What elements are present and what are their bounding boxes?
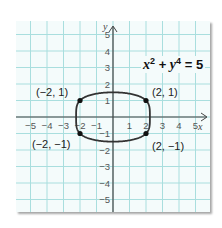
point-marker: [77, 98, 82, 103]
point-marker: [143, 98, 148, 103]
y-tick-label: 3: [105, 62, 110, 73]
y-tick-label: −3: [99, 161, 110, 172]
y-tick-label: 5: [105, 29, 110, 40]
point-label: (−2, −1): [32, 138, 71, 150]
equation-label: x2 + y4 = 5: [141, 56, 205, 73]
x-tick-label: −5: [25, 120, 36, 131]
x-tick-label: 3: [160, 120, 165, 131]
point-marker: [143, 131, 148, 136]
x-tick-label: −4: [42, 120, 53, 131]
plot-area: xy−5−4−3−2−11234554321−1−2−3−4−5(−2, 1)(…: [0, 0, 222, 228]
y-tick-label: −1: [99, 128, 110, 139]
y-tick-label: −2: [99, 145, 110, 156]
point-label: (2, 1): [152, 86, 178, 98]
y-tick-label: 2: [105, 79, 110, 90]
x-tick-label: −3: [58, 120, 69, 131]
point-label: (−2, 1): [36, 86, 68, 98]
y-tick-label: −4: [99, 178, 110, 189]
x-tick-label: 4: [176, 120, 181, 131]
point-marker: [77, 131, 82, 136]
y-tick-label: −5: [99, 194, 110, 205]
point-label: (2, −1): [152, 140, 184, 152]
x-tick-label: 5: [193, 120, 198, 131]
y-tick-label: 4: [105, 46, 110, 57]
y-tick-label: 1: [105, 95, 110, 106]
x-tick-label: 1: [127, 120, 132, 131]
